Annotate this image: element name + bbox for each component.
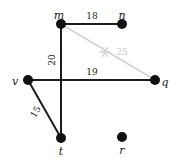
node-t bbox=[56, 133, 66, 143]
edge-weight-m-n: 18 bbox=[86, 11, 98, 21]
node-labels-layer: mnvqtr bbox=[12, 9, 169, 158]
node-r bbox=[117, 132, 127, 142]
edge-weight-v-t: 15 bbox=[28, 104, 43, 119]
edges-layer bbox=[28, 24, 155, 138]
edge-weights-layer: 1825201915 bbox=[28, 11, 128, 120]
node-label-n: n bbox=[118, 9, 125, 22]
edge-weight-m-q: 25 bbox=[116, 47, 128, 57]
node-label-q: q bbox=[161, 76, 168, 89]
node-label-v: v bbox=[12, 75, 19, 88]
graph-canvas: 1825201915 mnvqtr bbox=[0, 0, 176, 163]
node-label-t: t bbox=[59, 145, 64, 158]
node-label-r: r bbox=[119, 144, 125, 157]
node-q bbox=[150, 75, 160, 85]
edge-weight-m-t: 20 bbox=[47, 54, 57, 66]
node-v bbox=[23, 75, 33, 85]
node-label-m: m bbox=[54, 9, 64, 22]
edge-weight-v-q: 19 bbox=[86, 67, 98, 77]
graph-diagram: 1825201915 mnvqtr bbox=[0, 0, 176, 163]
